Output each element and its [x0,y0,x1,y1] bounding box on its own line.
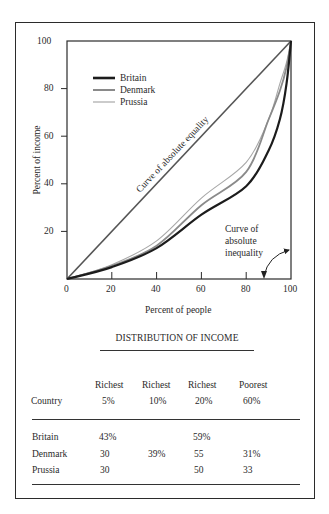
y-tick-100: 100 [37,36,51,47]
inequality-label-line1: Curve of [225,224,259,235]
header-col4-top: Poorest [239,380,268,390]
table-title-underline [100,350,254,351]
cell-richest5: 30 [100,449,110,459]
x-axis-title: Percent of people [145,305,211,316]
inequality-arrowhead-bottom [261,271,267,279]
x-tick-40: 40 [151,284,161,295]
legend-britain-label: Britain [120,73,146,84]
cell-country: Britain [32,432,58,442]
y-tick-80: 80 [44,83,54,94]
table-title: DISTRIBUTION OF INCOME [100,333,254,343]
x-axis-ticks [112,272,246,279]
y-tick-60: 60 [44,131,54,142]
cell-poorest60: 31% [243,449,260,459]
y-axis-title: Percent of income [32,125,42,194]
cell-country: Prussia [32,465,59,475]
inequality-arrow [264,250,289,276]
x-tick-0: 0 [64,284,69,295]
cell-country: Denmark [32,449,67,459]
cell-richest20: 55 [194,449,204,459]
cell-richest5: 43% [99,432,116,442]
inequality-label-line3: inequality [225,248,263,259]
x-tick-80: 80 [241,284,251,295]
legend [93,78,115,102]
legend-denmark-label: Denmark [120,85,155,96]
header-col2-bottom: 10% [149,396,166,406]
inequality-label-line2: absolute [225,236,257,247]
legend-prussia-label: Prussia [120,97,147,108]
x-tick-60: 60 [196,284,206,295]
header-col1-bottom: 5% [102,396,115,406]
header-col3-bottom: 20% [195,396,212,406]
header-col2-top: Richest [142,380,171,390]
table-header-rule [32,419,300,420]
header-col3-top: Richest [188,380,217,390]
cell-poorest60: 33 [243,465,253,475]
x-tick-20: 20 [106,284,116,295]
header-country: Country [31,396,62,406]
header-col1-top: Richest [95,380,124,390]
cell-richest10: 39% [148,449,165,459]
cell-richest5: 30 [100,465,110,475]
cell-richest20: 50 [194,465,204,475]
x-tick-100: 100 [283,284,297,295]
table-bottom-rule [32,484,300,485]
y-tick-40: 40 [44,178,54,189]
header-col4-bottom: 60% [243,396,260,406]
cell-richest20: 59% [193,432,210,442]
equality-label: Curve of absolute equality [134,114,210,194]
y-axis-ticks [61,89,67,232]
y-tick-20: 20 [44,226,54,237]
